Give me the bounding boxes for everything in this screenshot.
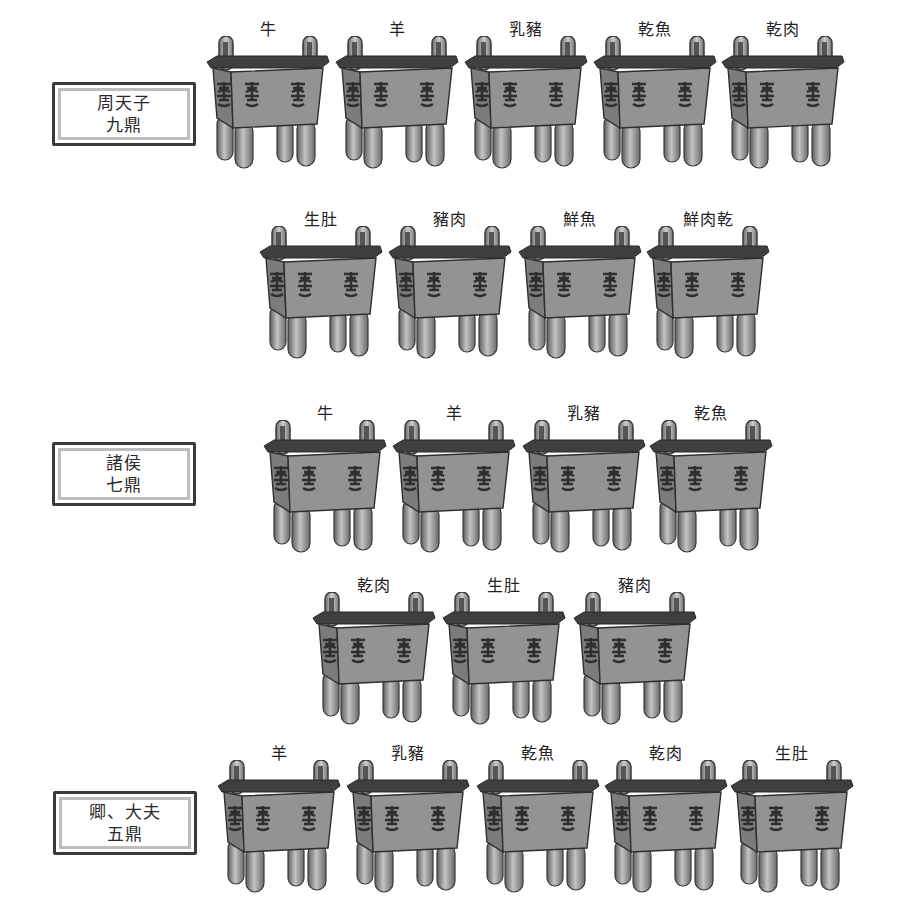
- ding-vessel-icon: [603, 760, 729, 894]
- ding-vessel-icon: [521, 420, 647, 554]
- ding-vessel: 乳豬: [345, 742, 471, 882]
- rank-title: 周天子: [97, 92, 151, 114]
- ding-vessel: 生肚: [258, 208, 384, 348]
- ding-vessel: 乳豬: [463, 18, 589, 158]
- ding-vessel-icon: [311, 592, 437, 726]
- ding-vessel: 羊: [216, 742, 342, 882]
- rank-title: 卿、大夫: [89, 801, 161, 823]
- ding-vessel-icon: [345, 760, 471, 894]
- rank-box-tianzi: 周天子 九鼎: [52, 82, 196, 146]
- ding-vessel: 豬肉: [572, 574, 698, 714]
- ding-vessel-icon: [475, 760, 601, 894]
- rank-count: 五鼎: [107, 823, 143, 845]
- rank-box-qing-dafu: 卿、大夫 五鼎: [53, 791, 197, 855]
- ding-vessel: 豬肉: [387, 208, 513, 348]
- ding-vessel: 乾魚: [592, 18, 718, 158]
- ding-vessel: 生肚: [729, 742, 855, 882]
- ding-vessel: 乾魚: [648, 402, 774, 542]
- ding-vessel-icon: [387, 226, 513, 360]
- ding-vessel-icon: [441, 592, 567, 726]
- ding-vessel-icon: [645, 226, 771, 360]
- ding-vessel: 乾魚: [475, 742, 601, 882]
- ding-vessel-icon: [572, 592, 698, 726]
- ding-vessel: 生肚: [441, 574, 567, 714]
- rank-count: 九鼎: [106, 114, 142, 136]
- ding-vessel-icon: [391, 420, 517, 554]
- ding-vessel-icon: [517, 226, 643, 360]
- ding-vessel: 羊: [334, 18, 460, 158]
- ding-vessel: 乾肉: [603, 742, 729, 882]
- ding-vessel: 鮮肉乾: [645, 208, 771, 348]
- ding-vessel: 牛: [262, 402, 388, 542]
- ding-vessel: 乾肉: [311, 574, 437, 714]
- ding-vessel: 鮮魚: [517, 208, 643, 348]
- ding-vessel-icon: [720, 36, 846, 170]
- rank-title: 諸侯: [106, 452, 142, 474]
- ding-vessel-icon: [463, 36, 589, 170]
- ding-vessel: 乳豬: [521, 402, 647, 542]
- ding-vessel-icon: [592, 36, 718, 170]
- ding-vessel: 牛: [205, 18, 331, 158]
- ding-vessel-icon: [258, 226, 384, 360]
- ding-vessel-icon: [334, 36, 460, 170]
- ding-vessel: 乾肉: [720, 18, 846, 158]
- ding-vessel-icon: [216, 760, 342, 894]
- ding-vessel: 羊: [391, 402, 517, 542]
- ding-vessel-icon: [262, 420, 388, 554]
- ding-vessel-icon: [729, 760, 855, 894]
- ding-vessel-icon: [205, 36, 331, 170]
- rank-count: 七鼎: [106, 474, 142, 496]
- rank-box-zhuhou: 諸侯 七鼎: [52, 442, 196, 506]
- ding-vessel-icon: [648, 420, 774, 554]
